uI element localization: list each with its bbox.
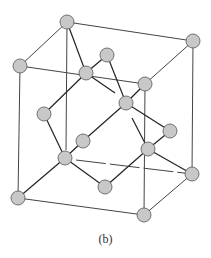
figure-caption: (b) (0, 232, 211, 247)
diamond-lattice-diagram (0, 0, 211, 258)
